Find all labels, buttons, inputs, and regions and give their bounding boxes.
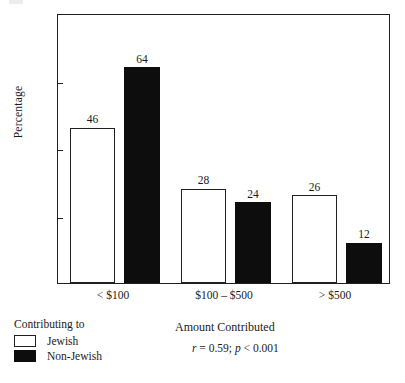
bar-value-non-jewish-over-500: 12 [358, 229, 370, 241]
bar-value-jewish-100-500: 28 [198, 175, 210, 187]
bar-non-jewish-under-100: 64 [124, 67, 160, 283]
bar-non-jewish-over-500: 12 [346, 243, 382, 284]
legend-label-non-jewish: Non-Jewish [47, 350, 102, 362]
bar-chart-figure: Percentage 80 60 40 20 0 < $100 $100 – $… [0, 0, 405, 383]
legend: Contributing to Jewish Non-Jewish [14, 318, 174, 365]
stat-p-value: < 0.001 [241, 342, 279, 354]
bar-value-non-jewish-100-500: 24 [247, 189, 259, 201]
legend-item-non-jewish: Non-Jewish [14, 350, 174, 362]
bar-value-jewish-over-500: 26 [309, 182, 321, 194]
bar-value-non-jewish-under-100: 64 [136, 54, 148, 66]
x-tick-label-over-500: > $500 [319, 290, 351, 302]
legend-item-jewish: Jewish [14, 335, 174, 347]
bar-value-jewish-under-100: 46 [87, 114, 99, 126]
stat-annotation: r = 0.59; p < 0.001 [192, 342, 279, 354]
bar-jewish-over-500: 26 [292, 195, 337, 283]
legend-title: Contributing to [14, 318, 174, 330]
bar-jewish-under-100: 46 [70, 128, 115, 283]
y-tick-mark-60 [58, 83, 63, 84]
y-axis-title: Percentage [12, 57, 24, 167]
dark-square-swatch-icon [14, 350, 36, 362]
x-axis-title: Amount Contributed [175, 320, 275, 335]
bar-non-jewish-100-500: 24 [235, 202, 271, 283]
y-tick-mark-20 [58, 218, 63, 219]
bar-jewish-100-500: 28 [181, 189, 226, 284]
x-tick-label-100-500: $100 – $500 [195, 290, 253, 302]
stat-r-value: = 0.59; [196, 342, 234, 354]
x-tick-label-under-100: < $100 [97, 290, 129, 302]
y-tick-mark-40 [58, 150, 63, 151]
plot-area: 46 64 28 24 26 12 [57, 14, 390, 284]
light-square-swatch-icon [14, 335, 36, 347]
scan-artifact [9, 0, 23, 4]
legend-label-jewish: Jewish [47, 335, 78, 347]
